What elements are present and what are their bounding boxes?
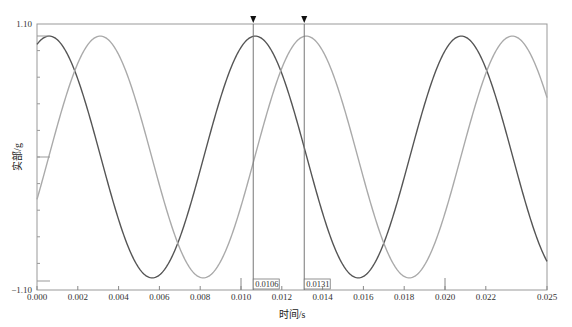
x-tick-label: 0.014 [312, 292, 333, 302]
y-axis-title: 实部/g [11, 143, 23, 171]
x-tick-label: 0.012 [272, 292, 292, 302]
series-dark [37, 36, 547, 278]
cursors[interactable]: 0.01060.0131 [250, 16, 330, 290]
cursor-label-1: 0.0106 [255, 279, 278, 289]
x-tick-label: 0.004 [108, 292, 129, 302]
cursor-marker-icon[interactable] [301, 16, 307, 23]
y-min-label: −1.10 [11, 285, 32, 295]
series-light [37, 36, 547, 278]
x-tick-label: 0.010 [231, 292, 252, 302]
x-axis-title: 时间/s [279, 308, 306, 320]
curves [37, 36, 547, 278]
x-tick-label: 0.008 [190, 292, 211, 302]
axis-ticks: 0.0000.0020.0040.0060.0080.0100.0120.014… [27, 36, 558, 302]
x-tick-label: 0.002 [68, 292, 88, 302]
cursor-marker-icon[interactable] [250, 16, 256, 23]
cursor-label-2: 0.0131 [306, 279, 329, 289]
x-tick-label: 0.022 [476, 292, 496, 302]
plot-frame [37, 24, 547, 290]
x-tick-label: 0.020 [435, 292, 456, 302]
x-tick-label: 0.025 [537, 292, 558, 302]
x-tick-label: 0.016 [353, 292, 374, 302]
x-tick-label: 0.018 [394, 292, 415, 302]
y-max-label: 1.10 [16, 19, 32, 29]
x-tick-label: 0.006 [149, 292, 170, 302]
chart: 0.01060.0131 0.0000.0020.0040.0060.0080.… [0, 0, 572, 327]
